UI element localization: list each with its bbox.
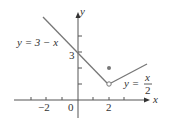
y-axis-label: y <box>79 5 85 17</box>
piecewise-graph: y x −2 0 2 3 y = 3 − x y = x 2 <box>0 0 174 127</box>
open-point <box>107 82 111 86</box>
right-equation-lhs: y = <box>123 77 139 89</box>
line-3-minus-x <box>43 17 107 83</box>
right-equation-numerator: x <box>144 71 150 83</box>
x-tick-label-2: 2 <box>106 101 112 113</box>
filled-point <box>107 66 111 70</box>
right-equation-denominator: 2 <box>145 84 151 96</box>
y-ticks <box>78 36 82 84</box>
x-axis-arrow-icon <box>144 98 150 103</box>
left-equation-label: y = 3 − x <box>16 36 58 48</box>
x-tick-label-neg2: −2 <box>38 101 50 113</box>
x-tick-label-0: 0 <box>68 101 74 113</box>
y-tick-label-3: 3 <box>69 49 75 61</box>
x-axis-label: x <box>152 93 158 105</box>
